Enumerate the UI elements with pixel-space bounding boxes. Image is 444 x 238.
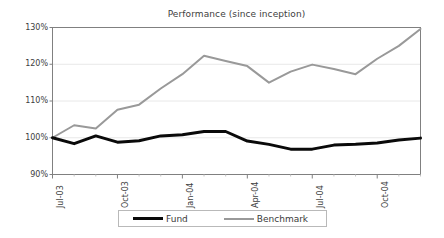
legend-swatch-benchmark-icon — [224, 218, 254, 220]
x-tick-label: Apr-04 — [251, 181, 260, 207]
x-tick-label: Jul-04 — [316, 185, 325, 208]
legend-label-benchmark: Benchmark — [257, 214, 308, 224]
legend-label-fund: Fund — [166, 214, 188, 224]
legend-entry-fund: Fund — [133, 211, 188, 226]
x-tick-label: Oct-04 — [381, 181, 390, 208]
chart-legend: Fund Benchmark — [118, 210, 327, 227]
legend-swatch-fund-icon — [133, 217, 163, 220]
x-tick-label: Oct-03 — [121, 181, 130, 208]
x-tick-label: Jul-03 — [56, 185, 65, 208]
x-tick-label: Jan-04 — [186, 182, 195, 207]
x-axis-tick-labels: Jul-03Oct-03Jan-04Apr-04Jul-04Oct-04 — [0, 0, 444, 238]
performance-chart: Performance (since inception) 90%100%110… — [0, 0, 444, 238]
legend-entry-benchmark: Benchmark — [224, 211, 308, 226]
